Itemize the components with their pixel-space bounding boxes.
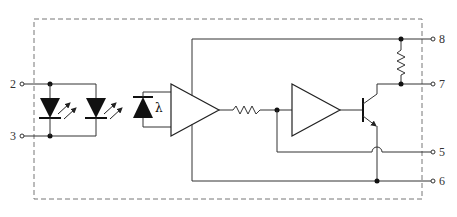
amplifier-1-icon — [171, 84, 219, 136]
optocoupler-schematic: 2 3 λ — [0, 0, 457, 217]
lambda-label: λ — [155, 101, 163, 115]
pin-label-5: 5 — [439, 145, 445, 159]
pin-6-terminal — [431, 179, 435, 183]
pin-label-7: 7 — [439, 77, 445, 91]
pin-8-terminal — [431, 37, 435, 41]
wire-pin5 — [277, 147, 431, 152]
pin-label-6: 6 — [439, 174, 445, 188]
pin-label-2: 2 — [10, 77, 16, 91]
input-pin-3 — [20, 134, 96, 138]
amplifier-2-icon — [292, 84, 340, 136]
junction-dot — [375, 179, 380, 184]
junction-dot — [399, 82, 404, 87]
resistor-series-icon — [219, 106, 292, 114]
pin-5-terminal — [431, 150, 435, 154]
npn-transistor-icon — [363, 84, 431, 181]
pin-label-3: 3 — [10, 129, 16, 143]
junction-dot — [399, 37, 404, 42]
pin-7-terminal — [431, 82, 435, 86]
photodiode-icon — [133, 92, 171, 127]
pin-label-8: 8 — [439, 32, 445, 46]
led-1-icon — [39, 84, 76, 136]
resistor-pullup-icon — [397, 39, 405, 84]
led-2-icon — [85, 84, 122, 136]
input-pin-2 — [20, 82, 96, 86]
